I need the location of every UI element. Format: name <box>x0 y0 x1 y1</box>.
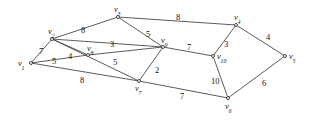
edge-weight-v10-v6: 10 <box>211 77 220 86</box>
vertex-label-v6: v6 <box>225 102 232 113</box>
edge-weight-v3-v9: 5 <box>146 30 150 39</box>
vertex-label-subscript: 10 <box>220 58 226 64</box>
vertex-label-v7: v7 <box>135 84 142 95</box>
graph-edge-v9-v7 <box>139 47 163 81</box>
graph-vertex-v5 <box>284 55 287 58</box>
edge-weight-v9-v7: 2 <box>155 66 159 75</box>
graph-vertex-v1 <box>30 62 33 65</box>
edge-weight-v1-v8: 5 <box>52 57 56 66</box>
vertex-label-v5: v5 <box>289 52 296 63</box>
vertex-label-v3: v3 <box>114 5 121 16</box>
graph-edge-v4-v5 <box>236 25 285 56</box>
graph-vertex-v10 <box>212 55 215 58</box>
edge-weight-v1-v7: 8 <box>80 76 84 85</box>
weighted-graph-figure: v1v2v3v4v5v6v7v8v9v10 75884355827341076 <box>0 0 311 120</box>
graph-edge-v6-v5 <box>228 56 285 98</box>
graph-edge-v1-v8 <box>31 55 88 63</box>
edge-weight-v2-v3: 8 <box>81 26 85 35</box>
graph-edge-v3-v9 <box>118 17 163 47</box>
vertex-label-v8: v8 <box>87 44 94 55</box>
vertex-label-v9: v9 <box>161 36 168 47</box>
edge-weight-v6-v5: 6 <box>262 79 266 88</box>
vertex-label-v2: v2 <box>48 27 55 38</box>
vertex-label-v4: v4 <box>234 13 241 24</box>
edge-weight-v2-v8: 4 <box>68 52 72 61</box>
graph-edge-v2-v7 <box>52 39 139 81</box>
edge-weight-v4-v10: 3 <box>224 40 228 49</box>
edge-weight-v9-v10: 7 <box>187 43 191 52</box>
edge-weight-v2-v7: 5 <box>113 58 117 67</box>
edge-weight-v4-v5: 4 <box>266 33 270 42</box>
vertex-label-v10: v10 <box>217 52 227 63</box>
vertex-label-v1: v1 <box>18 59 25 70</box>
edge-weight-v1-v2: 7 <box>39 47 43 56</box>
graph-edge-v8-v9 <box>88 47 163 55</box>
graph-vertex-v6 <box>227 97 230 100</box>
graph-canvas <box>0 0 311 120</box>
edge-weight-v3-v4: 8 <box>176 13 180 22</box>
edge-weight-v2-v9: 3 <box>110 40 114 49</box>
edge-weight-v7-v6: 7 <box>180 92 184 101</box>
graph-edge-v2-v9 <box>52 39 163 47</box>
graph-edge-v1-v7 <box>31 63 139 81</box>
